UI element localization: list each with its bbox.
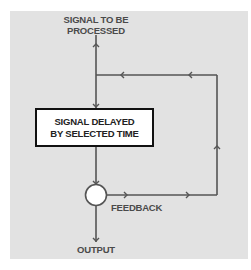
delay-box-line2: BY SELECTED TIME xyxy=(50,128,138,140)
delay-box: SIGNAL DELAYED BY SELECTED TIME xyxy=(35,108,154,147)
summing-junction-circle xyxy=(86,185,107,206)
input-label-line1: SIGNAL TO BE xyxy=(56,14,136,25)
input-label: SIGNAL TO BE PROCESSED xyxy=(56,14,136,36)
delay-box-line1: SIGNAL DELAYED xyxy=(50,116,138,128)
feedback-label: FEEDBACK xyxy=(111,202,161,213)
input-label-line2: PROCESSED xyxy=(56,25,136,36)
output-label: OUTPUT xyxy=(71,244,121,255)
